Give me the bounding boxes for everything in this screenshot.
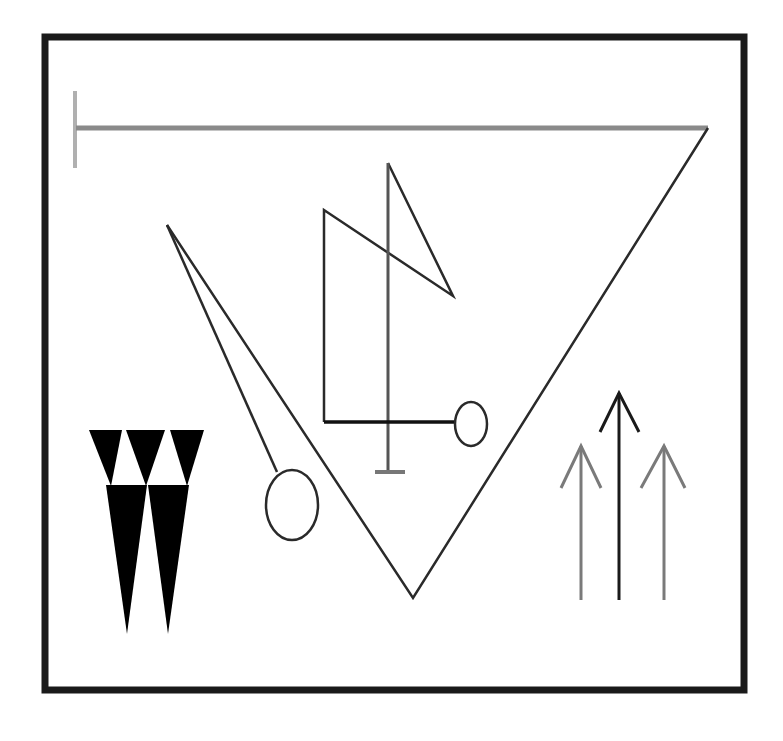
w-top-triangle-3: [170, 430, 204, 486]
z-glyph: [324, 163, 487, 472]
big-v-outline: [167, 128, 708, 598]
w-long-triangle-right: [148, 485, 189, 634]
arrow-up-icon-right: [641, 446, 685, 600]
diagram-canvas: [0, 0, 783, 741]
w-top-triangle-1: [89, 430, 122, 486]
arrow-up-icon-left: [561, 446, 601, 600]
w-long-triangle-left: [106, 485, 147, 634]
big-v: [167, 128, 708, 598]
arrow-up-icon-center: [600, 393, 639, 600]
frame: [45, 37, 744, 690]
arrows: [561, 393, 685, 600]
w-top-triangle-2: [126, 430, 165, 486]
needle: [167, 225, 318, 540]
top-line: [75, 91, 708, 168]
needle-ring-icon: [266, 470, 318, 540]
z-ring-icon: [455, 402, 487, 446]
w-shape: [89, 430, 204, 634]
